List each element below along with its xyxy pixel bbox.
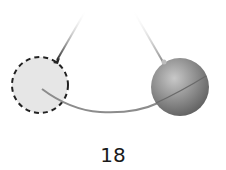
pendulum-ball xyxy=(151,58,209,116)
figure-label: 18 xyxy=(0,143,226,167)
right-string xyxy=(133,10,163,62)
right-attachment-icon xyxy=(162,60,167,65)
left-string xyxy=(57,10,86,60)
initial-position-circle xyxy=(12,57,68,113)
